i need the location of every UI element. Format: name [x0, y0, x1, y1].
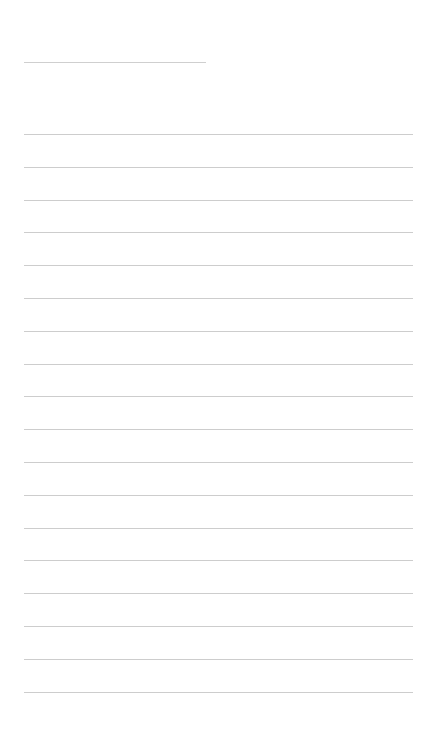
ruled-line	[24, 495, 413, 496]
ruled-line	[24, 462, 413, 463]
ruled-line	[24, 593, 413, 594]
ruled-line	[24, 429, 413, 430]
ruled-lines	[24, 134, 413, 724]
ruled-line	[24, 200, 413, 201]
ruled-line	[24, 396, 413, 397]
ruled-line	[24, 232, 413, 233]
ruled-line	[24, 692, 413, 693]
ruled-line	[24, 265, 413, 266]
ruled-line	[24, 167, 413, 168]
ruled-line	[24, 331, 413, 332]
ruled-line	[24, 626, 413, 627]
ruled-line	[24, 364, 413, 365]
ruled-line	[24, 298, 413, 299]
ruled-line	[24, 528, 413, 529]
ruled-line	[24, 134, 413, 135]
title-underline	[24, 62, 206, 63]
ruled-line	[24, 560, 413, 561]
ruled-line	[24, 659, 413, 660]
